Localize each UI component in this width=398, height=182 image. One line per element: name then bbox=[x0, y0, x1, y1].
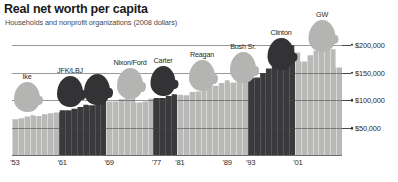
chart-figure: Real net worth per capita Households and… bbox=[0, 0, 398, 182]
president-annotation: GW bbox=[0, 0, 398, 182]
president-portrait-icon bbox=[309, 20, 336, 52]
president-label: GW bbox=[316, 10, 328, 19]
